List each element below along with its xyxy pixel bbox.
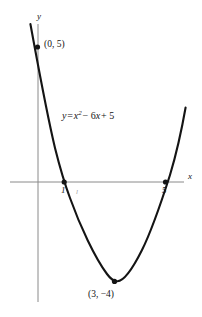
stray-mark: l — [76, 188, 78, 196]
x-tick-label-5: 5 — [162, 186, 167, 195]
parabola-curve — [30, 24, 185, 281]
equation-label: y = x2 − 6x + 5 — [62, 110, 114, 121]
equation-term-2: − 6 — [83, 110, 96, 121]
y-intercept-point-label: (0, 5) — [44, 40, 65, 50]
point-x-intercept-5 — [163, 179, 168, 184]
y-axis-label: y — [37, 12, 41, 21]
point-y-intercept — [35, 44, 40, 49]
equation-x-linear: x — [96, 110, 100, 121]
point-vertex — [112, 279, 117, 284]
parabola-figure: y x 1 5 l (0, 5) (3, −4) y = x2 − 6x + 5 — [0, 0, 202, 317]
point-x-intercept-1 — [62, 179, 67, 184]
equation-exponent: 2 — [78, 109, 82, 117]
x-tick-label-1: 1 — [61, 186, 66, 195]
equation-equals: = — [67, 110, 73, 121]
x-axis-label: x — [188, 172, 192, 181]
equation-lhs: y — [62, 110, 66, 121]
graph-canvas — [0, 0, 202, 317]
equation-term-3: + 5 — [101, 110, 114, 121]
vertex-point-label: (3, −4) — [88, 290, 114, 300]
